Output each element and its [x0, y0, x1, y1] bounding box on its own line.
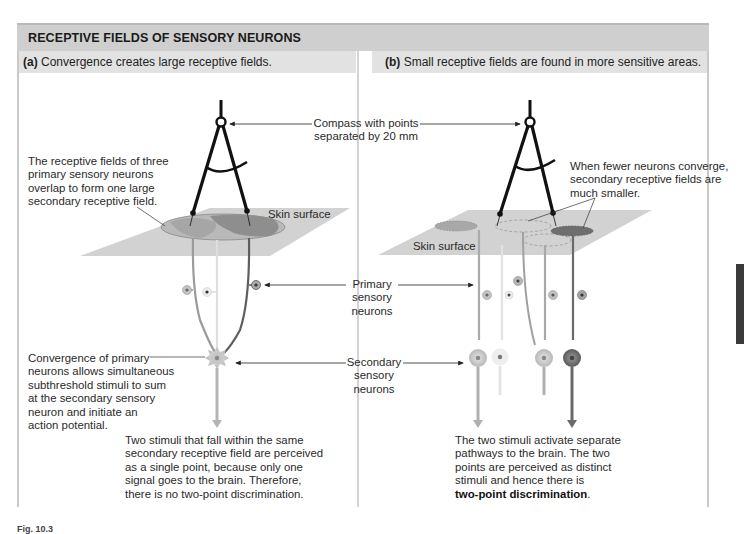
line: Convergence of primary: [28, 352, 174, 365]
line: primary sensory neurons: [28, 168, 169, 181]
line: action potential.: [28, 419, 174, 432]
line: much smaller.: [570, 187, 728, 200]
secondary-neuron-4: [563, 349, 581, 428]
panel-a-conclusion: Two stimuli that fall within the same se…: [125, 434, 323, 501]
line: two-point discrimination.: [455, 488, 621, 501]
line: secondary receptive field are perceived: [125, 447, 323, 460]
line: Compass with points: [312, 117, 420, 130]
line: neuron and initiate an: [28, 406, 174, 419]
panel-a-convergence-note: Convergence of primary neurons allows si…: [28, 352, 174, 432]
primary-neurons-label: Primary sensory neurons: [346, 278, 398, 318]
line: neurons: [346, 305, 398, 318]
panel-b-skin-label: Skin surface: [413, 240, 476, 253]
panel-b-compass-icon: [497, 100, 556, 226]
line: stimuli and hence there is: [455, 474, 621, 487]
line: there is no two-point discrimination.: [125, 488, 323, 501]
line: neurons allows simultaneous: [28, 365, 174, 378]
line: secondary receptive fields are: [570, 173, 728, 186]
chapter-side-tab: [736, 264, 744, 344]
line: neurons: [344, 383, 404, 396]
emphasis-two-point-discrimination: two-point discrimination: [455, 488, 587, 500]
line: separated by 20 mm: [312, 130, 420, 143]
panel-a-receptive-field: [161, 214, 285, 240]
line: at the secondary sensory: [28, 392, 174, 405]
secondary-neuron-2: [492, 349, 509, 396]
panel-a-skin-label: Skin surface: [268, 208, 331, 221]
line: When fewer neurons converge,: [570, 160, 728, 173]
panel-a-fields-annotation: The receptive fields of three primary se…: [28, 155, 169, 209]
panel-b-fields-annotation: When fewer neurons converge, secondary r…: [570, 160, 728, 200]
compass-label: Compass with points separated by 20 mm: [312, 117, 420, 144]
line: overlap to form one large: [28, 182, 169, 195]
line: sensory: [344, 369, 404, 382]
line: The receptive fields of three: [28, 155, 169, 168]
secondary-neuron-3: [535, 349, 553, 395]
line: signal goes to the brain. Therefore,: [125, 474, 323, 487]
line: as a single point, because only one: [125, 461, 323, 474]
line: Two stimuli that fall within the same: [125, 434, 323, 447]
panel-a-compass-icon: [190, 100, 250, 226]
panel-b-secondary-neurons: [469, 349, 581, 429]
panel-b-conclusion: The two stimuli activate separate pathwa…: [455, 434, 621, 501]
line: sensory: [346, 291, 398, 304]
panel-a-secondary-neuron: [205, 347, 229, 428]
line: Secondary: [344, 356, 404, 369]
line: pathways to the brain. The two: [455, 447, 621, 460]
line: Primary: [346, 278, 398, 291]
period: .: [587, 488, 590, 500]
figure-number: Fig. 10.3: [17, 524, 53, 534]
line: points are perceived as distinct: [455, 461, 621, 474]
line: subthreshold stimuli to sum: [28, 379, 174, 392]
secondary-neuron-1: [469, 349, 487, 428]
secondary-neurons-label: Secondary sensory neurons: [344, 356, 404, 396]
line: The two stimuli activate separate: [455, 434, 621, 447]
line: secondary receptive field.: [28, 195, 169, 208]
